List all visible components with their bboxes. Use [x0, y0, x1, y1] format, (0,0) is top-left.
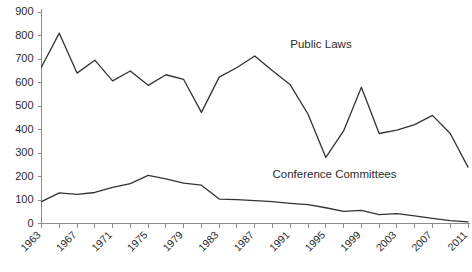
y-tick-label: 900 — [15, 5, 33, 17]
x-tick-label: 2003 — [373, 228, 398, 253]
x-tick-label: 2007 — [409, 228, 434, 253]
x-tick-label: 1991 — [267, 228, 292, 253]
y-tick-label: 100 — [15, 193, 33, 205]
x-tick-label: 1975 — [125, 228, 150, 253]
x-axis: 1963196719711975197919831987199119951999… — [18, 224, 470, 254]
series-line-public-laws — [42, 33, 469, 167]
x-tick-label: 1999 — [338, 228, 363, 253]
x-tick-label: 1963 — [18, 228, 43, 253]
y-tick-label: 200 — [15, 170, 33, 182]
x-tick-label: 2011 — [445, 228, 470, 253]
x-tick-label: 1979 — [160, 228, 185, 253]
chart-canvas: 0100200300400500600700800900 19631967197… — [0, 0, 472, 272]
x-tick-label: 1983 — [196, 228, 221, 253]
series-label-conference-committees: Conference Committees — [273, 168, 397, 180]
series-labels: Public LawsConference Committees — [273, 38, 397, 180]
y-tick-label: 700 — [15, 52, 33, 64]
y-tick-label: 0 — [27, 217, 33, 229]
y-tick-label: 600 — [15, 76, 33, 88]
x-tick-label: 1971 — [89, 228, 114, 253]
series-label-public-laws: Public Laws — [290, 38, 352, 50]
series-line-conference-committees — [42, 175, 469, 222]
y-tick-label: 300 — [15, 146, 33, 158]
x-tick-label: 1987 — [231, 228, 256, 253]
y-tick-label: 800 — [15, 29, 33, 41]
y-tick-label: 400 — [15, 123, 33, 135]
x-tick-label: 1967 — [53, 228, 78, 253]
x-tick-label: 1995 — [302, 228, 327, 253]
line-chart: 0100200300400500600700800900 19631967197… — [0, 0, 472, 272]
series-layer — [42, 33, 469, 222]
y-tick-label: 500 — [15, 99, 33, 111]
y-axis: 0100200300400500600700800900 — [15, 5, 41, 229]
